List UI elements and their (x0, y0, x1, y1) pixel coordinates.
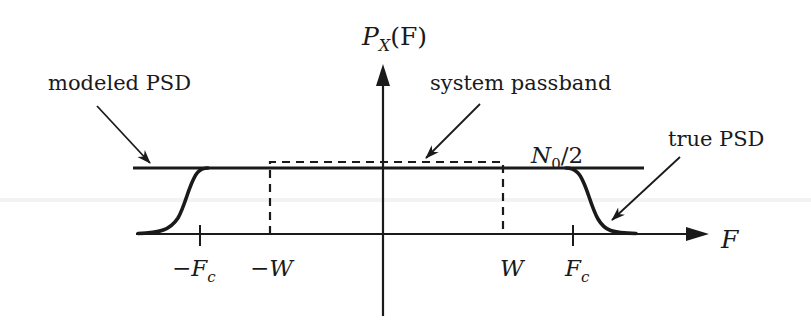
system-passband-pointer (426, 104, 480, 158)
tick-label-neg-fc: −Fc (172, 255, 216, 286)
scan-artifact (0, 198, 811, 202)
x-axis-label: F (720, 225, 740, 254)
x-axis-arrow-icon (686, 227, 709, 241)
tick-label-neg-w: −W (250, 255, 295, 281)
tick-label-w: W (500, 255, 526, 281)
annotation-modeled-psd: modeled PSD (48, 71, 191, 95)
y-axis (376, 64, 390, 316)
y-axis-arrow-icon (376, 64, 390, 86)
psd-diagram: PX(F) F N0/2 −Fc −W W Fc modeled PSD sys… (0, 0, 811, 328)
annotation-true-psd: true PSD (668, 127, 764, 151)
modeled-psd-pointer (97, 106, 150, 163)
tick-label-fc: Fc (564, 255, 590, 286)
y-axis-label: PX(F) (361, 22, 427, 55)
annotation-system-passband: system passband (430, 71, 611, 95)
